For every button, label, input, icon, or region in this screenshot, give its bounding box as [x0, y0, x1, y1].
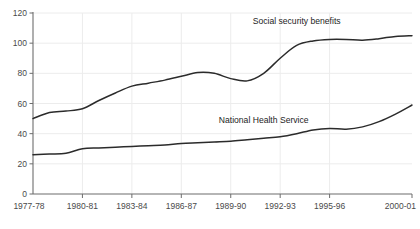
- y-tick-label: 0: [22, 189, 27, 199]
- x-tick-label: 1992-93: [265, 201, 296, 211]
- x-tick-label: 1995-96: [314, 201, 345, 211]
- series-line-1: [33, 36, 412, 119]
- line-chart: 020406080100120 1977-781980-811983-84198…: [0, 0, 420, 229]
- y-tick-label: 20: [18, 159, 28, 169]
- y-tick-label: 60: [18, 99, 28, 109]
- y-tick-label: 80: [18, 68, 28, 78]
- series-line-2: [33, 105, 412, 155]
- y-tick-label: 120: [13, 8, 27, 18]
- x-axis: 1977-781980-811983-841986-871989-901992-…: [13, 194, 416, 211]
- x-tick-label: 1980-81: [67, 201, 98, 211]
- y-tick-label: 100: [13, 38, 27, 48]
- x-tick-label: 1977-78: [13, 201, 44, 211]
- y-axis: 020406080100120: [13, 8, 33, 199]
- x-tick-label: 1986-87: [166, 201, 197, 211]
- series-label-2: National Health Service: [219, 115, 309, 125]
- series-lines: [33, 36, 412, 155]
- x-tick-label: 2000-01: [385, 201, 416, 211]
- x-tick-label: 1989-90: [215, 201, 246, 211]
- chart-canvas: 020406080100120 1977-781980-811983-84198…: [0, 0, 420, 229]
- y-tick-label: 40: [18, 129, 28, 139]
- x-tick-label: 1983-84: [116, 201, 147, 211]
- series-label-1: Social security benefits: [253, 16, 341, 26]
